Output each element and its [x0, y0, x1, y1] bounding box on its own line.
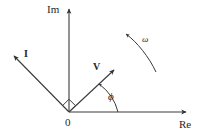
current-phasor-label: I	[24, 49, 28, 59]
current-phasor-line	[14, 56, 69, 112]
real-axis-label: Re	[179, 119, 191, 130]
phase-angle-label: ϕ	[108, 91, 114, 102]
phasor-diagram-figure: Im Re 0 I V ϕ ω	[0, 0, 204, 138]
voltage-phasor-label: V	[93, 62, 100, 72]
origin-label: 0	[65, 117, 71, 128]
angular-velocity-arc	[126, 34, 156, 72]
imaginary-axis-label: Im	[47, 4, 59, 15]
phasor-diagram-canvas	[0, 0, 204, 138]
angular-velocity-label: ω	[142, 35, 148, 44]
